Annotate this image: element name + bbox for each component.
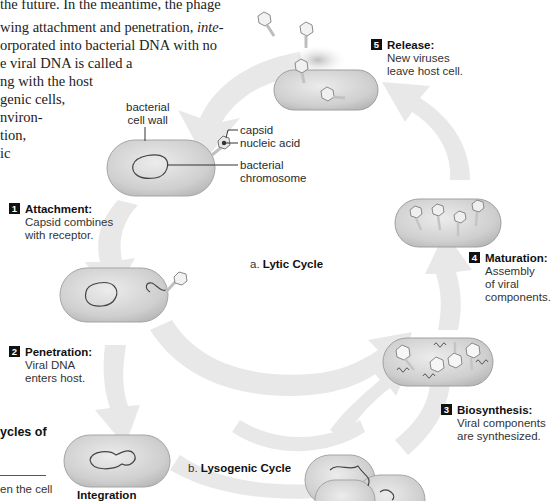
step-number-badge: 2 (9, 346, 20, 357)
side-box-text: en the cell (0, 483, 52, 495)
step-desc-line: Viral components (441, 417, 546, 430)
caption-integration: Integration (77, 489, 136, 501)
label-cell-wall-line1: bacterial (126, 101, 169, 114)
lysogenic-cell-cluster (305, 455, 425, 501)
step-desc-line: Assembly (469, 265, 551, 278)
attachment-cell (107, 140, 215, 196)
step-maturation: 4Maturation: Assembly of viral component… (469, 252, 551, 304)
caption-title: Lysogenic Cycle (201, 462, 291, 474)
side-box-heading: ycles of (0, 425, 47, 439)
body-text-line-1: wing attachment and penetration, inte-wi… (0, 18, 223, 36)
step-desc-line: enters host. (9, 372, 92, 385)
step-number-badge: 4 (469, 252, 480, 263)
step-desc-line: are synthesized. (441, 430, 546, 443)
body-text-line-7: tion, (0, 126, 26, 144)
penetration-cell (60, 268, 168, 322)
maturation-cell (395, 199, 501, 247)
label-bacterial-chromosome: bacterial chromosome (240, 159, 306, 185)
label-cell-wall: bacterial cell wall (126, 101, 169, 127)
body-text-line-4: ng with the host (0, 72, 93, 90)
step-desc-line: of viral (469, 278, 551, 291)
label-capsid: capsid (240, 124, 273, 137)
caption-lysogenic-cycle: b. Lysogenic Cycle (188, 462, 291, 474)
body-text-line-3: e viral DNA is called a (0, 54, 132, 72)
integration-cell (64, 435, 170, 487)
body-text-line-0: the future. In the meantime, the phage (0, 0, 221, 13)
side-box-divider (0, 475, 46, 476)
caption-title: Lytic Cycle (263, 258, 323, 270)
step-desc-line: leave host cell. (371, 65, 463, 78)
step-release: 5Release: New viruses leave host cell. (371, 39, 463, 78)
step-number-badge: 1 (9, 203, 20, 214)
step-number-badge: 3 (441, 404, 452, 415)
step-title: Biosynthesis: (457, 404, 532, 416)
step-attachment: 1Attachment: Capsid combines with recept… (9, 203, 113, 242)
caption-prefix: b. (188, 462, 201, 474)
step-penetration: 2Penetration: Viral DNA enters host. (9, 346, 92, 385)
step-title: Release: (387, 39, 434, 51)
label-chromosome-line1: bacterial (240, 159, 306, 172)
step-desc-line: Capsid combines (9, 216, 113, 229)
body-text-line-5: genic cells, (0, 90, 65, 108)
body-text-line-6: nviron- (0, 108, 43, 126)
step-desc-line: New viruses (371, 52, 463, 65)
step-biosynthesis: 3Biosynthesis: Viral components are synt… (441, 404, 546, 443)
body-text-italic: inte- (197, 19, 224, 35)
label-chromosome-line2: chromosome (240, 172, 306, 185)
step-number-badge: 5 (371, 39, 382, 50)
free-phage-1 (258, 12, 274, 36)
step-title: Penetration: (25, 346, 92, 358)
step-desc-line: with receptor. (9, 229, 113, 242)
body-text-line-1-plain: wing attachment and penetration, (0, 19, 197, 35)
label-cell-wall-line2: cell wall (126, 114, 169, 127)
step-desc-line: Viral DNA (9, 359, 92, 372)
caption-prefix: a. (250, 258, 263, 270)
body-text-line-2: orporated into bacterial DNA with no (0, 36, 217, 54)
step-title: Maturation: (485, 252, 548, 264)
step-desc-line: components. (469, 291, 551, 304)
step-title: Attachment: (25, 203, 92, 215)
body-text-line-8: ic (0, 144, 10, 162)
free-phage-2 (300, 22, 313, 48)
caption-lytic-cycle: a. Lytic Cycle (250, 258, 323, 270)
label-nucleic-acid: nucleic acid (240, 137, 300, 150)
